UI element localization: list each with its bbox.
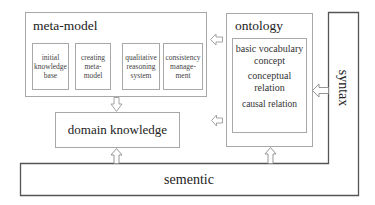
meta-component-qualitative-reasoning-system: qualitative reasoning system [122,43,160,90]
syntax-label: syntax [335,69,351,106]
component-label: consistency manage-ment [165,53,201,80]
arrow-down-icon [110,97,123,112]
meta-model-title: meta-model [33,18,97,34]
ontology-title: ontology [235,18,283,34]
syntax-label-container: syntax [328,12,358,163]
meta-component-creating-meta-model: creating meta-model [75,43,111,90]
component-label: qualitative reasoning system [124,53,158,80]
arrow-left-icon [210,33,223,46]
meta-component-initial-knowledge-base: initial knowledge base [32,43,69,90]
domain-knowledge-box: domain knowledge [55,112,180,148]
semantic-label: sementic [164,172,214,188]
domain-knowledge-label: domain knowledge [68,122,167,138]
component-label: initial knowledge base [34,53,67,80]
arrow-left-icon [312,83,329,98]
ontology-inner-box: basic vocabulary concept conceptual rela… [232,38,307,133]
ontology-item-causal-relation: causal relation [233,99,306,111]
component-label: creating meta-model [77,53,109,80]
arrow-left-icon [211,114,223,127]
arrow-up-icon [110,148,123,164]
arrow-up-icon [264,147,277,164]
meta-component-consistency-management: consistency manage-ment [163,43,203,90]
ontology-item-conceptual-relation: conceptual relation [233,70,306,93]
ontology-item-basic-vocabulary: basic vocabulary concept [233,43,306,66]
semantic-label-container: sementic [20,164,358,195]
